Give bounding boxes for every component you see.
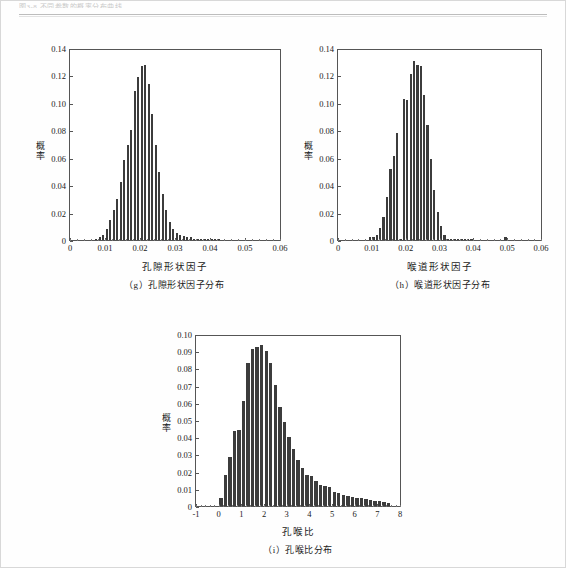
bar	[116, 199, 118, 240]
y-tick-label: 0.01	[161, 486, 192, 495]
x-minor-tickmark	[228, 505, 229, 507]
x-minor-tickmark	[189, 239, 190, 241]
bar	[260, 345, 263, 507]
x-minor-tickmark	[259, 239, 260, 241]
bar	[393, 156, 395, 240]
figure-g-plot: 00.020.040.060.080.100.120.14 00.010.020…	[29, 41, 287, 256]
bar	[155, 145, 157, 240]
x-minor-tickmark	[252, 239, 253, 241]
bar	[233, 431, 236, 506]
y-tick-label: 0.06	[303, 155, 334, 164]
bar	[148, 84, 150, 240]
bar	[378, 501, 381, 506]
x-minor-tickmark	[426, 239, 427, 241]
x-minor-tickmark	[224, 239, 225, 241]
y-tickmark	[70, 104, 73, 105]
x-minor-tickmark	[368, 505, 369, 507]
x-minor-tickmark	[266, 239, 267, 241]
x-minor-tickmark	[154, 239, 155, 241]
y-tick-label: 0.06	[35, 155, 66, 164]
bar	[123, 160, 125, 240]
y-tickmark	[338, 241, 341, 242]
y-tickmark	[196, 387, 199, 388]
x-minor-tickmark	[140, 239, 141, 241]
y-tick-label: 0.08	[161, 365, 192, 374]
x-minor-tickmark	[182, 239, 183, 241]
y-tickmark	[196, 438, 199, 439]
y-tickmark	[338, 131, 341, 132]
y-tick-label: 0.04	[161, 434, 192, 443]
bar	[228, 457, 231, 506]
x-minor-tickmark	[514, 239, 515, 241]
y-tickmark	[70, 186, 73, 187]
x-minor-tickmark	[112, 239, 113, 241]
bar	[416, 65, 418, 240]
x-minor-tickmark	[399, 239, 400, 241]
x-minor-tickmark	[494, 239, 495, 241]
y-tick-label: 0.03	[161, 451, 192, 460]
y-tickmark	[196, 421, 199, 422]
y-tick-label: 0.08	[35, 127, 66, 136]
bar	[323, 486, 326, 506]
x-minor-tickmark	[205, 505, 206, 507]
bar	[120, 182, 122, 240]
x-tick-label: 0.04	[196, 244, 224, 253]
x-minor-tickmark	[346, 505, 347, 507]
x-minor-tickmark	[534, 239, 535, 241]
x-minor-tickmark	[467, 239, 468, 241]
y-tick-label: 0.02	[303, 210, 334, 219]
x-tick-label: 0.01	[358, 244, 386, 253]
figure-i-plot: 00.010.020.030.040.050.060.070.080.090.1…	[153, 331, 423, 521]
bar	[386, 197, 388, 240]
x-minor-tickmark	[412, 239, 413, 241]
y-tickmark	[196, 369, 199, 370]
x-minor-tickmark	[210, 505, 211, 507]
x-minor-tickmark	[278, 505, 279, 507]
bar	[430, 159, 432, 240]
x-tick-label: 0.05	[493, 244, 521, 253]
x-minor-tickmark	[396, 505, 397, 507]
bar	[158, 172, 160, 240]
bar	[437, 212, 439, 241]
x-minor-tickmark	[372, 239, 373, 241]
y-tick-label: 0.06	[161, 400, 192, 409]
figure-g-bars	[70, 50, 280, 240]
paper-page: 图3-8 不同参数的概率分布曲线 概率 00.020.040.060.080.1…	[0, 0, 566, 568]
x-minor-tickmark	[273, 239, 274, 241]
x-tick-label: 0.06	[527, 244, 555, 253]
x-minor-tickmark	[273, 505, 274, 507]
x-minor-tickmark	[238, 239, 239, 241]
y-tickmark	[338, 76, 341, 77]
bar	[237, 430, 240, 506]
x-minor-tickmark	[345, 239, 346, 241]
x-tick-label: 0	[324, 244, 352, 253]
x-tick-label: 0	[56, 244, 84, 253]
x-minor-tickmark	[168, 239, 169, 241]
x-minor-tickmark	[385, 239, 386, 241]
bar	[319, 485, 322, 506]
bar	[310, 476, 313, 506]
bar	[433, 190, 435, 240]
x-minor-tickmark	[377, 505, 378, 507]
header-rule	[19, 14, 547, 15]
x-minor-tickmark	[84, 239, 85, 241]
x-minor-tickmark	[245, 239, 246, 241]
y-tickmark	[196, 352, 199, 353]
bar	[151, 114, 153, 240]
bar	[278, 407, 281, 506]
y-tick-label: 0.05	[161, 417, 192, 426]
figure-i-xlabel: 孔喉比	[195, 524, 401, 538]
x-minor-tickmark	[291, 505, 292, 507]
y-tick-label: 0.02	[161, 469, 192, 478]
x-minor-tickmark	[217, 239, 218, 241]
bar	[292, 449, 295, 506]
y-tickmark	[196, 507, 199, 508]
x-minor-tickmark	[210, 239, 211, 241]
x-minor-tickmark	[440, 239, 441, 241]
x-minor-tickmark	[314, 505, 315, 507]
bar	[141, 66, 143, 240]
y-tickmark	[196, 335, 199, 336]
y-tick-label: 0.12	[35, 72, 66, 81]
x-minor-tickmark	[98, 239, 99, 241]
y-tickmark	[338, 214, 341, 215]
